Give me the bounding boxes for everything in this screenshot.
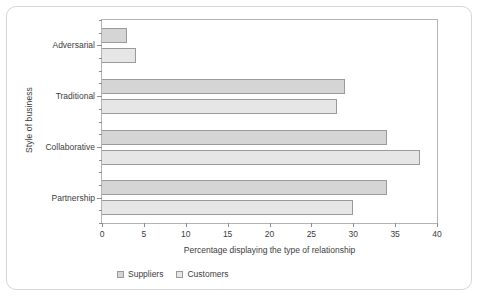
bar-traditional-suppliers	[102, 79, 345, 94]
bar-group	[102, 20, 437, 71]
bar-partnership-suppliers	[102, 180, 387, 195]
legend-swatch-icon	[176, 271, 183, 278]
bar-chart-figure: Style of business AdversarialTraditional…	[7, 7, 472, 290]
bar-collaborative-customers	[102, 150, 420, 165]
bar-traditional-customers	[102, 99, 337, 114]
y-axis-minor-tick	[99, 122, 102, 123]
legend-label: Suppliers	[128, 269, 163, 279]
y-axis-minor-tick	[99, 185, 102, 186]
y-axis-title: Style of business	[24, 50, 34, 190]
y-axis-minor-tick	[99, 172, 102, 173]
bar-group	[102, 172, 437, 223]
bar-adversarial-customers	[102, 48, 136, 63]
legend-swatch-icon	[117, 271, 124, 278]
y-axis-minor-tick	[99, 109, 102, 110]
x-axis-tick-label: 15	[223, 229, 232, 239]
x-axis-tick	[437, 223, 438, 227]
chart-legend: SuppliersCustomers	[101, 269, 438, 279]
x-axis-tick	[270, 223, 271, 227]
bar-partnership-customers	[102, 200, 353, 215]
x-axis-tick-label: 0	[100, 229, 105, 239]
x-axis-tick-label: 40	[432, 229, 441, 239]
x-axis-title: Percentage displaying the type of relati…	[101, 245, 438, 255]
legend-item-suppliers[interactable]: Suppliers	[117, 269, 163, 279]
x-axis-tick-label: 5	[142, 229, 147, 239]
x-axis-tick	[186, 223, 187, 227]
y-axis-minor-tick	[99, 134, 102, 135]
x-axis-tick	[395, 223, 396, 227]
legend-label: Customers	[187, 269, 228, 279]
y-axis-minor-tick	[99, 58, 102, 59]
y-axis-minor-tick	[99, 96, 102, 97]
y-axis-minor-tick	[99, 45, 102, 46]
y-axis-tick-label: Collaborative	[45, 142, 95, 152]
x-axis-tick	[228, 223, 229, 227]
x-axis-tick-label: 30	[349, 229, 358, 239]
y-axis-minor-tick	[99, 147, 102, 148]
y-axis-minor-tick	[99, 210, 102, 211]
y-axis-minor-tick	[99, 33, 102, 34]
x-axis-tick-label: 20	[265, 229, 274, 239]
x-axis-tick	[311, 223, 312, 227]
x-axis-tick-label: 10	[181, 229, 190, 239]
x-axis-tick	[144, 223, 145, 227]
bar-series-container	[102, 20, 437, 223]
bar-group	[102, 71, 437, 122]
bar-group	[102, 122, 437, 173]
x-axis-tick-label: 35	[390, 229, 399, 239]
x-axis-tick	[353, 223, 354, 227]
x-axis-tick	[102, 223, 103, 227]
bar-adversarial-suppliers	[102, 28, 127, 43]
plot-area: AdversarialTraditionalCollaborativePartn…	[101, 19, 438, 224]
y-axis-tick-label: Partnership	[52, 193, 95, 203]
x-axis-tick-label: 25	[307, 229, 316, 239]
y-axis-minor-tick	[99, 160, 102, 161]
y-axis-tick-label: Traditional	[56, 91, 95, 101]
y-axis-minor-tick	[99, 83, 102, 84]
chart-card: Style of business AdversarialTraditional…	[6, 6, 472, 290]
legend-item-customers[interactable]: Customers	[176, 269, 228, 279]
y-axis-minor-tick	[99, 20, 102, 21]
bar-collaborative-suppliers	[102, 130, 387, 145]
y-axis-minor-tick	[99, 71, 102, 72]
y-axis-tick-label: Adversarial	[52, 40, 95, 50]
y-axis-minor-tick	[99, 198, 102, 199]
